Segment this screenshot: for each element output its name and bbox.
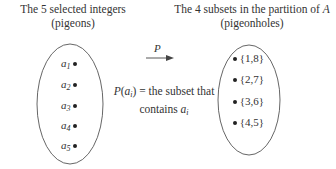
pigeon-a3: a3 (61, 99, 77, 113)
left-title-line1: The 5 selected integers (3, 2, 143, 16)
element-sub: 1 (67, 62, 71, 71)
note-line1: P(ai) = the subset that (109, 84, 219, 102)
subset-label: {2,7} (240, 73, 264, 85)
note-line2: contains ai (109, 102, 219, 120)
point-icon (73, 83, 77, 87)
note-rest: = the subset that (136, 85, 214, 97)
right-title: The 4 subsets in the partition of A (pig… (172, 2, 332, 30)
element-sub: 3 (67, 104, 71, 113)
note-arg-sub: i (130, 90, 132, 99)
subset-label: {4,5} (240, 116, 264, 128)
element-sub: 5 (67, 144, 71, 153)
point-icon (233, 78, 237, 82)
pigeon-a2: a2 (61, 78, 77, 92)
subset-label: {1,8} (240, 52, 264, 64)
pigeonhole-2: {2,7} (233, 73, 264, 85)
mapping-note: P(ai) = the subset that contains ai (109, 84, 219, 120)
subset-label: {3,6} (240, 95, 264, 107)
point-icon (233, 57, 237, 61)
arrow-icon (146, 55, 174, 61)
point-icon (73, 124, 77, 128)
pigeonhole-1: {1,8} (233, 52, 264, 64)
point-icon (73, 144, 77, 148)
point-icon (233, 121, 237, 125)
point-icon (73, 104, 77, 108)
pigeonhole-3: {3,6} (233, 95, 264, 107)
arrow-label: P (154, 42, 161, 54)
left-title: The 5 selected integers (pigeons) (3, 2, 143, 30)
point-icon (233, 100, 237, 104)
note-func: P (114, 85, 121, 97)
right-title-line1: The 4 subsets in the partition of A (172, 2, 332, 16)
right-title-line2: (pigeonholes) (172, 16, 332, 30)
pigeon-a1: a1 (61, 57, 77, 71)
element-sub: 4 (67, 124, 71, 133)
note-var-sub: i (186, 108, 188, 117)
set-name: A (323, 3, 330, 15)
left-title-line2: (pigeons) (3, 16, 143, 30)
pigeon-a5: a5 (61, 139, 77, 153)
pigeonhole-4: {4,5} (233, 116, 264, 128)
note-line2-text: contains (139, 103, 180, 115)
element-sub: 2 (67, 83, 71, 92)
point-icon (73, 62, 77, 66)
pigeon-a4: a4 (61, 119, 77, 133)
right-title-text: The 4 subsets in the partition of (174, 3, 323, 15)
